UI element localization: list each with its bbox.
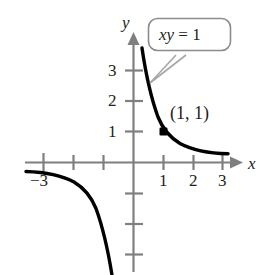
y-axis xyxy=(128,32,140,272)
x-tick-label-3: 3 xyxy=(218,172,227,189)
y-tick-label-2: 2 xyxy=(108,92,117,109)
equation-rhs: = 1 xyxy=(174,25,201,44)
equation-variable: xy xyxy=(159,25,174,44)
x-tick-label-minus-3: −3 xyxy=(30,172,48,189)
x-tick-label-2: 2 xyxy=(189,172,198,189)
x-axis-label: x xyxy=(248,155,256,172)
curve-branch-first-quadrant xyxy=(142,48,228,154)
y-tick-label-1: 1 xyxy=(108,123,117,140)
equation-callout-text: xy = 1 xyxy=(159,26,201,43)
callout-leader xyxy=(150,55,186,83)
y-tick-label-3: 3 xyxy=(108,62,117,79)
point-label: (1, 1) xyxy=(170,104,209,122)
plot-canvas xyxy=(0,0,266,275)
point-marker xyxy=(160,128,168,136)
y-axis-label: y xyxy=(122,14,130,31)
x-tick-label-1: 1 xyxy=(159,172,168,189)
hyperbola-figure: 3 2 1 −3 1 2 3 y x (1, 1) xy = 1 xyxy=(0,0,266,275)
